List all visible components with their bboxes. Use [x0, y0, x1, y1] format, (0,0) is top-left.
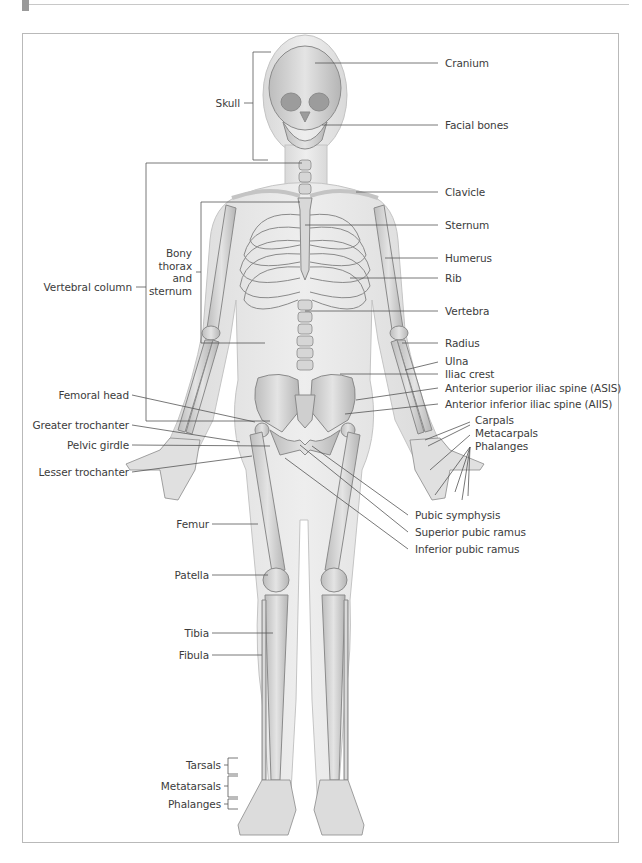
- label-cranium: Cranium: [445, 57, 489, 69]
- label-facial-bones: Facial bones: [445, 119, 508, 131]
- label-aiis: Anterior inferior iliac spine (AIIS): [445, 398, 612, 410]
- label-clavicle: Clavicle: [445, 186, 485, 198]
- skeleton-illustration: [0, 0, 642, 863]
- label-patella: Patella: [175, 569, 209, 581]
- label-skull: Skull: [216, 97, 240, 109]
- label-metatarsals: Metatarsals: [161, 780, 221, 792]
- feet: [238, 780, 364, 835]
- label-hand-phalanges: Phalanges: [475, 440, 528, 452]
- label-sternum: Sternum: [445, 219, 489, 231]
- label-foot-phalanges: Phalanges: [168, 798, 221, 810]
- label-superior-pubic-ramus: Superior pubic ramus: [415, 526, 526, 538]
- label-inferior-pubic-ramus: Inferior pubic ramus: [415, 543, 519, 555]
- label-humerus: Humerus: [445, 252, 492, 264]
- label-vertebral-column: Vertebral column: [44, 281, 132, 293]
- label-bony-thorax: Bony thorax and sternum: [140, 247, 192, 297]
- label-fibula: Fibula: [179, 649, 209, 661]
- label-pubic-symphysis: Pubic symphysis: [415, 509, 500, 521]
- label-asis: Anterior superior iliac spine (ASIS): [445, 382, 621, 394]
- label-rib: Rib: [445, 272, 462, 284]
- label-iliac-crest: Iliac crest: [445, 368, 494, 380]
- label-lesser-trochanter: Lesser trochanter: [38, 466, 129, 478]
- label-femur: Femur: [176, 518, 209, 530]
- label-greater-trochanter: Greater trochanter: [32, 419, 129, 431]
- label-tarsals: Tarsals: [186, 759, 221, 771]
- label-femoral-head: Femoral head: [58, 389, 129, 401]
- label-tibia: Tibia: [184, 627, 209, 639]
- label-pelvic-girdle: Pelvic girdle: [67, 439, 129, 451]
- label-ulna: Ulna: [445, 355, 468, 367]
- label-metacarpals: Metacarpals: [475, 427, 538, 439]
- label-radius: Radius: [445, 337, 480, 349]
- label-carpals: Carpals: [475, 414, 514, 426]
- label-vertebra: Vertebra: [445, 305, 489, 317]
